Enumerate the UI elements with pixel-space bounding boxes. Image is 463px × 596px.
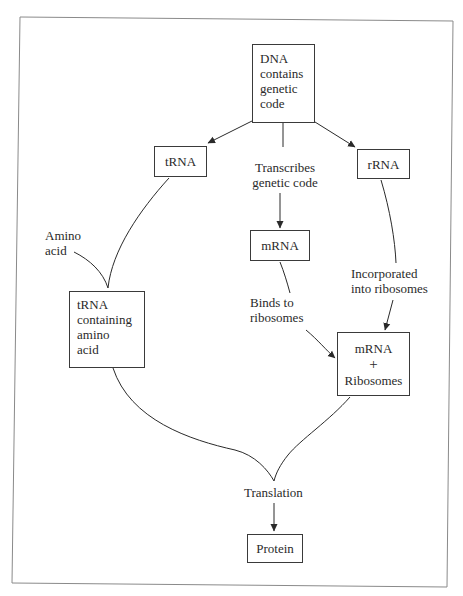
node-dna-line: DNA [260,51,308,66]
label-translation: Translation [244,485,303,500]
edge-rrna-incorporated [381,180,396,263]
label-binds-line: ribosomes [250,310,303,325]
edge-trna-amino-translation [113,368,274,481]
node-protein-label: Protein [256,541,294,556]
label-amino-acid-line: Amino [45,228,81,243]
node-trna-amino-line: amino [77,327,138,342]
edge-trna-trna-amino [108,178,169,288]
node-mrna-ribosomes-line: Ribosomes [338,373,409,388]
node-dna-line: code [260,96,308,111]
node-trna-amino-line: containing [77,312,138,327]
label-transcribes-line: genetic code [246,175,324,190]
label-transcribes: Transcribes genetic code [246,160,324,190]
node-protein: Protein [247,534,303,563]
edge-binds-mrna-ribosomes [306,330,335,358]
label-amino-acid: Amino acid [45,228,81,258]
label-amino-acid-line: acid [45,243,81,258]
label-incorporated-line: into ribosomes [351,281,428,296]
node-rrna-label: rRNA [368,157,400,172]
edge-mrna-binds [280,262,290,293]
edge-mrna-ribosomes-translation [274,397,350,481]
node-mrna: mRNA [250,230,310,261]
label-incorporated-line: Incorporated [351,266,428,281]
edge-dna-trna [208,121,252,143]
node-dna-line: genetic [260,81,308,96]
label-incorporated: Incorporated into ribosomes [351,266,428,296]
node-trna-amino-line: tRNA [77,297,138,312]
label-binds: Binds to ribosomes [250,295,303,325]
node-trna-amino-line: acid [77,342,138,357]
label-translation-line: Translation [244,485,303,500]
node-rrna: rRNA [357,149,410,179]
node-trna-label: tRNA [165,154,196,169]
label-binds-line: Binds to [250,295,303,310]
node-dna-line: contains [260,66,308,81]
edge-dna-rrna [315,122,355,147]
edge-incorporated-mrna-ribosomes [385,300,393,330]
node-dna: DNA contains genetic code [252,44,315,123]
node-mrna-ribosomes: mRNA + Ribosomes [337,332,410,396]
node-mrna-ribosomes-line: + [338,356,409,373]
node-mrna-label: mRNA [261,238,299,253]
label-transcribes-line: Transcribes [246,160,324,175]
node-trna: tRNA [154,146,207,177]
node-mrna-ribosomes-line: mRNA [338,341,409,356]
node-trna-amino-acid: tRNA containing amino acid [69,291,145,368]
